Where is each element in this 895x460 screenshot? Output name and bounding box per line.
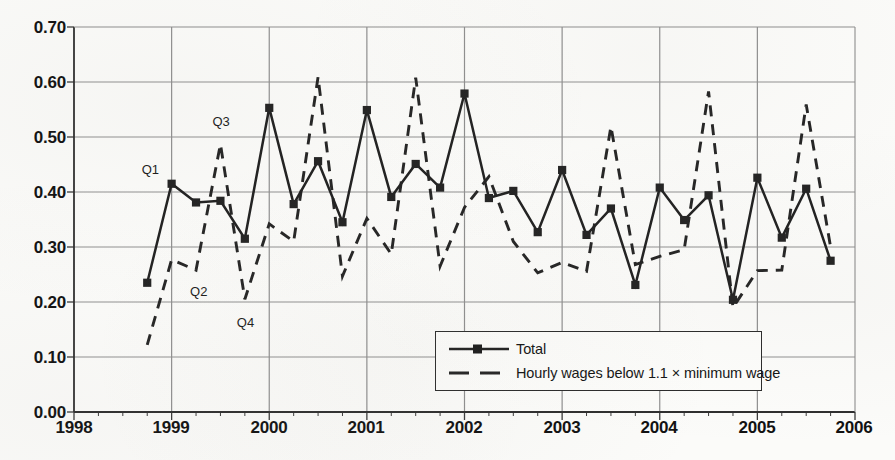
legend-swatch-dashed	[448, 365, 510, 381]
annotation-q3: Q3	[212, 114, 229, 129]
chart-legend: Total Hourly wages below 1.1 × minimum w…	[435, 331, 762, 391]
legend-label-hourly-wages: Hourly wages below 1.1 × minimum wage	[516, 365, 780, 381]
legend-swatch-solid-marker	[448, 341, 510, 357]
annotation-q1: Q1	[142, 162, 159, 177]
legend-item-total: Total	[448, 338, 546, 360]
chart-container: 0.70 0.60 0.50 0.40 0.30 0.20 0.10 0.00 …	[0, 0, 895, 460]
chart-plot-area	[0, 0, 895, 460]
x-minor-ticks	[74, 412, 855, 420]
annotation-q4: Q4	[237, 315, 254, 330]
legend-item-hourly-wages: Hourly wages below 1.1 × minimum wage	[448, 362, 780, 384]
annotation-q2: Q2	[190, 284, 207, 299]
legend-label-total: Total	[516, 341, 546, 357]
y-axis-ticks	[67, 27, 74, 412]
